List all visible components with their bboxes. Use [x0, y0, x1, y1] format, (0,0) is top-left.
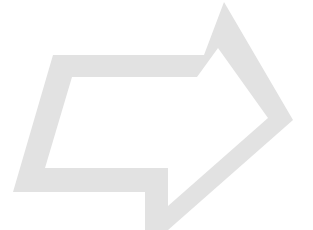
- arrow-group: [13, 2, 293, 230]
- image-canvas: Large light gray outlined arrow shape po…: [0, 0, 313, 230]
- arrow-graphic: [0, 0, 313, 230]
- right-arrow-icon: [13, 2, 293, 230]
